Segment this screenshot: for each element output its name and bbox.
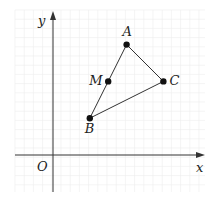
point-m bbox=[105, 78, 111, 84]
segment-ac bbox=[127, 45, 164, 82]
triangle-points: AMCB bbox=[84, 24, 180, 137]
point-label-c: C bbox=[169, 73, 179, 88]
coordinate-diagram: x y O AMCB bbox=[0, 0, 214, 202]
point-label-a: A bbox=[122, 24, 132, 39]
point-label-m: M bbox=[88, 73, 103, 88]
x-axis-label: x bbox=[196, 160, 204, 175]
point-label-b: B bbox=[84, 121, 95, 136]
y-axis-label: y bbox=[37, 13, 46, 28]
y-axis-arrow-icon bbox=[50, 11, 56, 20]
point-c bbox=[160, 78, 166, 84]
point-a bbox=[123, 41, 129, 47]
axes: x y O bbox=[15, 11, 205, 192]
origin-label: O bbox=[37, 159, 48, 174]
